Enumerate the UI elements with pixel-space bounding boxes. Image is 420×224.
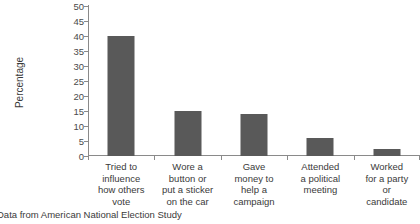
x-label-line: a political	[287, 173, 353, 185]
bar-wore-a-button-or-put-a-sticker-on-the-car	[174, 111, 201, 156]
x-tick-mark	[154, 156, 155, 160]
y-tick-label: 50	[73, 1, 84, 12]
x-label-line: Gave	[221, 161, 287, 173]
x-label-line: candidate	[354, 196, 420, 208]
x-label-line: or	[354, 184, 420, 196]
x-label-line: campaign	[221, 196, 287, 208]
x-label-line: influence	[88, 173, 154, 185]
x-tick-mark	[88, 156, 89, 160]
y-tick-label: 15	[73, 106, 84, 117]
x-label-worked-for-a-party-or-candidate: Worked for a party or candidate	[354, 161, 420, 207]
source-footnote: Data from American National Election Stu…	[0, 209, 182, 221]
bar-slot	[221, 0, 287, 156]
y-axis-tick-labels: 50 45 40 35 30 25 20 15 10 5 0	[62, 0, 84, 160]
y-axis-title: Percentage	[14, 43, 25, 123]
x-label-line: money to	[221, 173, 287, 185]
x-tick-mark	[287, 156, 288, 160]
x-label-line: meeting	[287, 184, 353, 196]
x-label-line: Worked	[354, 161, 420, 173]
x-label-line: how others	[88, 184, 154, 196]
x-label-gave-money-to-help-a-campaign: Gave money to help a campaign	[221, 161, 287, 207]
x-label-line: Wore a	[154, 161, 220, 173]
bar-chart-figure: Percentage 50 45 40 35 30 25 20 15 10 5 …	[0, 0, 420, 224]
x-label-line: on the car	[154, 196, 220, 208]
bar-gave-money-to-help-a-campaign	[240, 114, 267, 156]
y-tick-label: 40	[73, 31, 84, 42]
y-tick-label: 35	[73, 46, 84, 57]
bar-tried-to-influence-how-others-vote	[108, 36, 135, 156]
x-label-line: Attended	[287, 161, 353, 173]
x-label-line: Tried to	[88, 161, 154, 173]
x-label-line: put a sticker	[154, 184, 220, 196]
bar-attended-a-political-meeting	[307, 138, 334, 156]
bar-series	[88, 0, 420, 156]
x-label-attended-a-political-meeting: Attended a political meeting	[287, 161, 353, 196]
y-tick-label: 45	[73, 16, 84, 27]
bar-slot	[287, 0, 353, 156]
bar-slot	[154, 0, 220, 156]
x-tick-mark	[221, 156, 222, 160]
plot-area: Percentage 50 45 40 35 30 25 20 15 10 5 …	[0, 0, 420, 160]
y-tick-label: 20	[73, 91, 84, 102]
y-tick-label: 30	[73, 61, 84, 72]
bar-slot	[354, 0, 420, 156]
x-label-line: help a	[221, 184, 287, 196]
x-label-line: button or	[154, 173, 220, 185]
bar-slot	[88, 0, 154, 156]
y-tick-label: 10	[73, 121, 84, 132]
x-label-line: vote	[88, 196, 154, 208]
x-label-tried-to-influence-how-others-vote: Tried to influence how others vote	[88, 161, 154, 207]
x-tick-mark	[354, 156, 355, 160]
x-label-line: for a party	[354, 173, 420, 185]
y-tick-label: 25	[73, 76, 84, 87]
bar-worked-for-a-party-or-candidate	[373, 149, 400, 157]
x-axis-category-labels: Tried to influence how others vote Wore …	[88, 161, 420, 209]
x-label-wore-a-button-or-put-a-sticker-on-the-car: Wore a button or put a sticker on the ca…	[154, 161, 220, 207]
